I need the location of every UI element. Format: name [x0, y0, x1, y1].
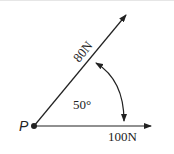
angle-arc [96, 63, 124, 121]
force-diagram: P 80N 100N 50° [0, 0, 174, 154]
angle-label: 50° [73, 97, 91, 112]
point-label: P [19, 118, 29, 134]
force-label-80n: 80N [70, 38, 96, 65]
force-label-100n: 100N [108, 129, 138, 144]
point-p-dot [31, 123, 37, 129]
